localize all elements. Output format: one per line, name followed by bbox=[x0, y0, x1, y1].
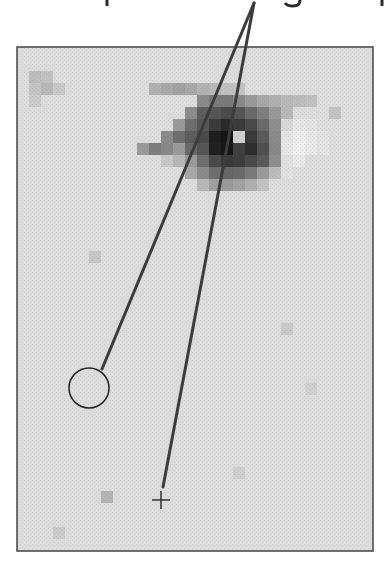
figure-canvas bbox=[0, 0, 392, 567]
eye-photo bbox=[17, 47, 373, 551]
caption-descenders bbox=[107, 0, 382, 6]
eye-tracking-figure bbox=[0, 0, 392, 567]
